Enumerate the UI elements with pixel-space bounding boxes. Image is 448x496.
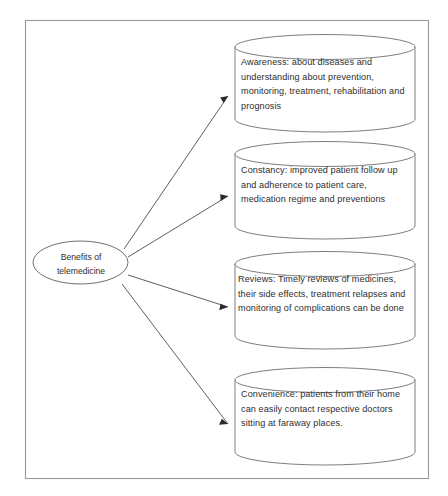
connector-group — [122, 96, 228, 425]
node-label-convenience: Convenience: patients from their home ca… — [241, 387, 411, 431]
source-node-label: Benefits of telemedicine — [42, 250, 120, 278]
node-label-reviews: Reviews: Timely reviews of medicines, th… — [238, 272, 410, 316]
node-label-awareness: Awareness: about diseases and understand… — [241, 55, 409, 113]
arrowhead-constancy-icon — [220, 194, 228, 201]
arrowhead-awareness-icon — [220, 96, 228, 103]
arrowhead-reviews-icon — [219, 304, 228, 311]
connector-to-reviews — [128, 275, 228, 307]
node-label-constancy: Constancy: improved patient follow up an… — [241, 163, 409, 207]
connector-to-awareness — [124, 96, 228, 249]
connector-to-convenience — [122, 284, 228, 424]
diagram-canvas: Benefits of telemedicine Awareness: abou… — [0, 0, 448, 496]
connector-to-constancy — [128, 196, 228, 257]
